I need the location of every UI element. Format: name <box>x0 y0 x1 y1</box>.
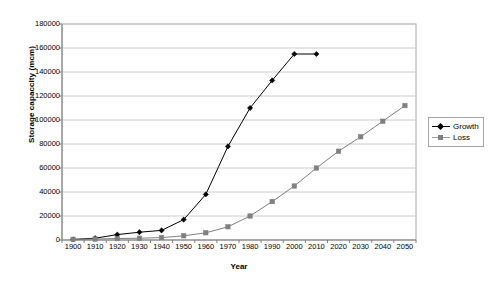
data-point-loss <box>314 166 318 170</box>
data-point-loss <box>358 135 362 139</box>
y-axis-title: Storage capaccity (mcm) <box>27 20 36 170</box>
data-point-loss <box>137 236 141 240</box>
y-axis-tick-labels: 0200004000060000800001000001200001400001… <box>18 0 60 281</box>
data-point-loss <box>403 103 407 107</box>
data-point-loss <box>248 214 252 218</box>
data-point-loss <box>204 231 208 235</box>
data-point-loss <box>71 237 75 241</box>
y-tick-label: 0 <box>20 236 60 244</box>
data-point-loss <box>270 199 274 203</box>
legend-item-growth[interactable]: Growth <box>432 121 479 132</box>
data-point-loss <box>93 237 97 241</box>
legend-marker-growth-icon <box>432 122 450 131</box>
y-tick-label: 40000 <box>20 188 60 196</box>
data-point-loss <box>226 225 230 229</box>
legend-label-growth: Growth <box>450 122 479 131</box>
legend-marker-loss-icon <box>432 133 450 142</box>
data-point-loss <box>381 119 385 123</box>
chart-plot-area <box>0 0 490 281</box>
chart-legend: Growth Loss <box>428 117 484 147</box>
y-tick-label: 20000 <box>20 212 60 220</box>
plot-border <box>62 24 416 240</box>
data-point-loss <box>336 149 340 153</box>
chart-container: 0200004000060000800001000001200001400001… <box>0 0 490 281</box>
data-point-loss <box>159 235 163 239</box>
x-axis-title: Year <box>62 262 416 271</box>
data-point-loss <box>292 184 296 188</box>
legend-label-loss: Loss <box>450 133 470 142</box>
legend-item-loss[interactable]: Loss <box>432 132 479 143</box>
x-tick-label: 2050 <box>390 243 420 251</box>
data-point-loss <box>115 236 119 240</box>
data-point-loss <box>181 234 185 238</box>
